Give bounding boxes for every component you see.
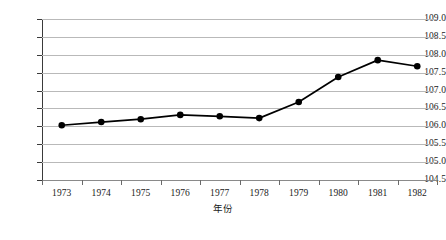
x-tick-mark bbox=[121, 180, 122, 185]
x-tick-label: 1978 bbox=[240, 189, 280, 199]
data-point bbox=[58, 122, 65, 129]
data-point bbox=[98, 119, 105, 126]
x-tick-label: 1977 bbox=[200, 189, 240, 199]
x-tick-label: 1981 bbox=[358, 189, 398, 199]
data-point bbox=[295, 99, 302, 106]
data-point bbox=[137, 116, 144, 123]
x-tick-label: 1980 bbox=[319, 189, 359, 199]
series-line bbox=[62, 60, 418, 125]
line-chart: 109.0108.5108.0107.5107.0106.5106.0105.5… bbox=[0, 0, 446, 240]
x-tick-mark bbox=[82, 180, 83, 185]
x-tick-label: 1974 bbox=[82, 189, 122, 199]
x-tick-mark bbox=[398, 180, 399, 185]
x-tick-mark bbox=[161, 180, 162, 185]
x-tick-mark bbox=[240, 180, 241, 185]
x-axis-title: 年份 bbox=[0, 205, 446, 215]
data-point bbox=[177, 112, 184, 119]
data-series bbox=[42, 19, 437, 180]
x-tick-mark bbox=[358, 180, 359, 185]
data-point bbox=[335, 74, 342, 81]
plot-area bbox=[42, 19, 437, 180]
x-tick-mark bbox=[437, 180, 438, 185]
x-tick-label: 1973 bbox=[42, 189, 82, 199]
x-tick-mark bbox=[279, 180, 280, 185]
x-tick-label: 1982 bbox=[398, 189, 438, 199]
data-point bbox=[414, 63, 421, 70]
x-tick-mark bbox=[200, 180, 201, 185]
x-tick-label: 1976 bbox=[161, 189, 201, 199]
x-tick-mark bbox=[42, 180, 43, 185]
x-tick-label: 1979 bbox=[279, 189, 319, 199]
data-point bbox=[256, 115, 263, 122]
data-point bbox=[374, 57, 381, 64]
x-tick-label: 1975 bbox=[121, 189, 161, 199]
data-point bbox=[216, 113, 223, 120]
x-tick-mark bbox=[319, 180, 320, 185]
